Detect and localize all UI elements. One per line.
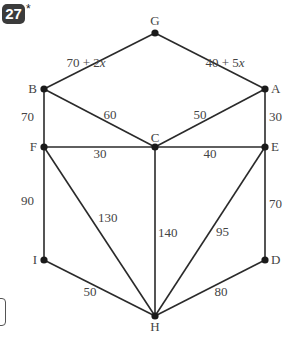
node-D [261, 256, 268, 263]
edge-weight-B-C: 60 [104, 107, 117, 122]
edge-D-H [155, 260, 265, 316]
node-label-H: H [150, 319, 159, 334]
edge-weight-E-D: 70 [269, 196, 282, 211]
edge-B-C [44, 89, 155, 147]
edge-weight-labels: 70 + 2x40 + 5x60507030304090130140957050… [21, 55, 282, 299]
node-label-G: G [150, 13, 159, 28]
node-label-B: B [28, 81, 37, 96]
edge-weight-G-A: 40 + 5x [205, 55, 244, 70]
node-label-C: C [151, 130, 160, 145]
node-G [151, 29, 158, 36]
edge-weight-E-H: 95 [216, 224, 229, 239]
edge-weight-F-C: 30 [94, 146, 107, 161]
node-B [40, 85, 47, 92]
graph-edges [44, 33, 265, 316]
edge-weight-I-H: 50 [84, 284, 97, 299]
node-label-D: D [271, 252, 280, 267]
edge-weight-B-F: 70 [21, 109, 34, 124]
node-label-E: E [271, 139, 279, 154]
edge-weight-A-E: 30 [269, 109, 282, 124]
edge-A-C [155, 89, 265, 147]
edge-I-H [44, 260, 155, 316]
edge-weight-C-H: 140 [158, 225, 178, 240]
edge-weight-F-H: 130 [98, 210, 118, 225]
network-graph: 70 + 2x40 + 5x60507030304090130140957050… [0, 0, 288, 337]
node-label-F: F [30, 139, 37, 154]
edge-weight-G-B: 70 + 2x [66, 55, 105, 70]
edge-weight-C-E: 40 [204, 146, 217, 161]
node-I [40, 256, 47, 263]
node-F [40, 143, 47, 150]
node-E [261, 143, 268, 150]
node-A [261, 85, 268, 92]
edge-F-H [44, 147, 155, 316]
edge-weight-D-H: 80 [215, 284, 228, 299]
edge-weight-A-C: 50 [194, 107, 207, 122]
node-label-I: I [33, 252, 37, 267]
node-label-A: A [271, 81, 281, 96]
edge-weight-F-I: 90 [21, 193, 34, 208]
